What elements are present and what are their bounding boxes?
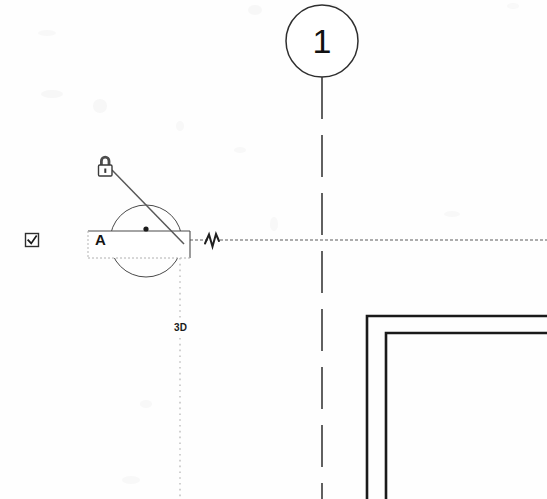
wall-outer-stroke (367, 316, 547, 499)
break-line-zigzag-icon[interactable] (205, 234, 219, 247)
grid-bubble-label: 1 (296, 15, 348, 67)
view-direction-tag-label: 3D (172, 321, 189, 334)
padlock-icon[interactable] (99, 156, 113, 176)
section-callout[interactable] (88, 170, 190, 277)
wall-inner-corner (386, 333, 547, 499)
padlock-keyhole (104, 169, 106, 173)
section-callout-label: A (95, 232, 106, 248)
zigzag-stroke (205, 234, 219, 247)
wall-outer-corner (367, 316, 547, 499)
wall-inner-stroke (386, 333, 547, 499)
checkbox-checked-icon[interactable] (26, 234, 39, 247)
drawing-canvas (0, 0, 547, 499)
section-origin-dot (143, 226, 148, 231)
padlock-shackle (100, 156, 110, 166)
